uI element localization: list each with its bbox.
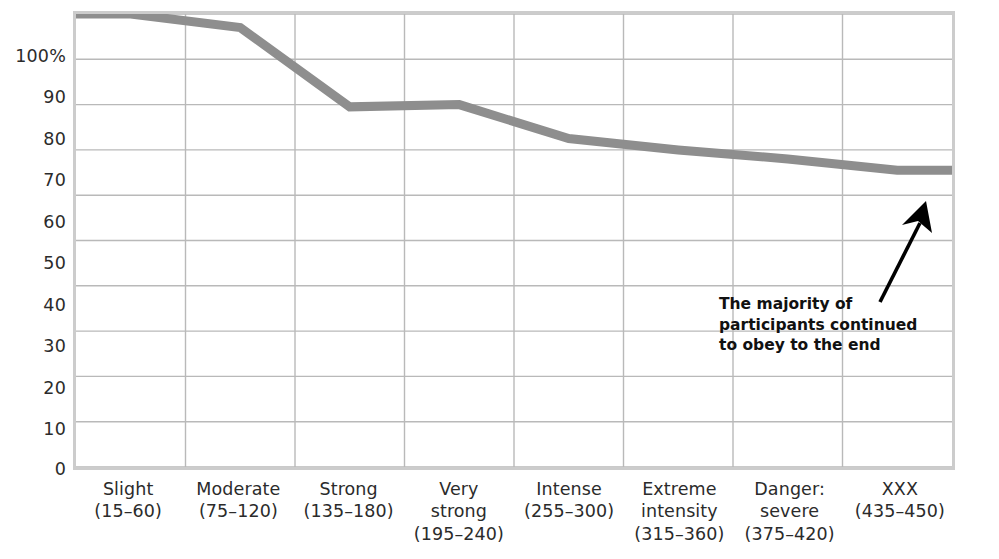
x-tick-extreme-intensity-line1: Extreme [624, 478, 734, 500]
x-tick-very-strong-line2: strong [404, 500, 514, 522]
obedience-line-chart: 100% 90 80 70 60 50 40 30 20 10 0 The ma… [0, 0, 999, 559]
plot-area [73, 11, 955, 470]
y-tick-90: 90 [4, 89, 66, 107]
x-tick-xxx-line1: XXX [845, 478, 955, 500]
annotation-label: The majority of participants continued t… [719, 294, 939, 356]
x-tick-strong-line1: Strong [294, 478, 404, 500]
y-tick-10: 10 [4, 421, 66, 439]
x-tick-very-strong-line1: Very [404, 478, 514, 500]
x-tick-extreme-intensity: Extreme intensity (315–360) [624, 477, 734, 559]
x-tick-strong-line2: (135–180) [294, 500, 404, 522]
y-axis: 100% 90 80 70 60 50 40 30 20 10 0 [0, 0, 66, 559]
x-tick-intense-line2: (255–300) [514, 500, 624, 522]
x-tick-danger-severe-line1: Danger: [735, 478, 845, 500]
x-tick-slight-line2: (15–60) [73, 500, 183, 522]
x-tick-slight: Slight (15–60) [73, 477, 183, 559]
y-tick-30: 30 [4, 338, 66, 356]
x-tick-moderate-line1: Moderate [183, 478, 293, 500]
y-tick-60: 60 [4, 214, 66, 232]
y-tick-0: 0 [4, 461, 66, 479]
y-tick-40: 40 [4, 297, 66, 315]
x-tick-intense-line1: Intense [514, 478, 624, 500]
y-tick-20: 20 [4, 380, 66, 398]
x-axis: Slight (15–60) Moderate (75–120) Strong … [73, 477, 955, 559]
x-tick-moderate: Moderate (75–120) [183, 477, 293, 559]
x-tick-xxx: XXX (435–450) [845, 477, 955, 559]
y-tick-100: 100% [4, 48, 66, 66]
x-tick-extreme-intensity-line2: intensity [624, 500, 734, 522]
x-tick-xxx-line2: (435–450) [845, 500, 955, 522]
annotation-line-3: to obey to the end [719, 335, 939, 356]
y-tick-70: 70 [4, 172, 66, 190]
x-tick-extreme-intensity-line3: (315–360) [624, 523, 734, 545]
annotation-line-1: The majority of [719, 294, 939, 315]
x-tick-danger-severe-line2: severe [735, 500, 845, 522]
plot-svg [76, 14, 952, 467]
x-tick-intense: Intense (255–300) [514, 477, 624, 559]
x-tick-danger-severe: Danger: severe (375–420) [735, 477, 845, 559]
x-tick-moderate-line2: (75–120) [183, 500, 293, 522]
y-tick-50: 50 [4, 255, 66, 273]
x-tick-very-strong: Very strong (195–240) [404, 477, 514, 559]
annotation-line-2: participants continued [719, 315, 939, 336]
x-tick-strong: Strong (135–180) [294, 477, 404, 559]
y-tick-80: 80 [4, 131, 66, 149]
x-tick-slight-line1: Slight [73, 478, 183, 500]
x-tick-danger-severe-line3: (375–420) [735, 523, 845, 545]
x-tick-very-strong-line3: (195–240) [404, 523, 514, 545]
